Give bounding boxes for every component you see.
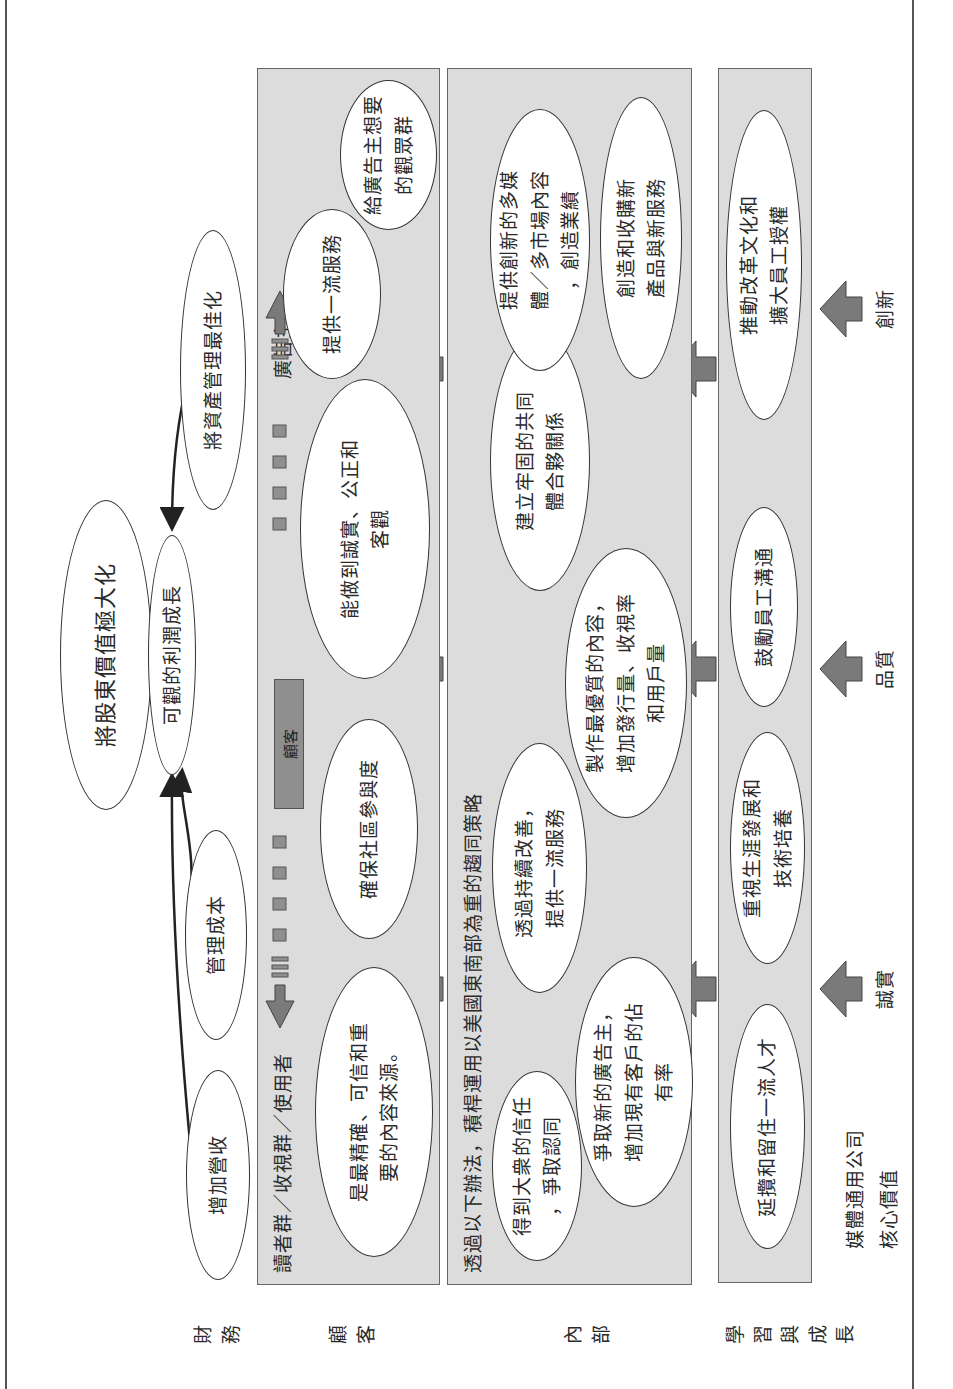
internal-heading: 透過以下辦法，積桿運用以美國東南部為重的趨同策略: [458, 793, 485, 1273]
oval-manage-cost: 管理成本: [185, 830, 247, 1040]
internal-oval-public-trust: 得到大衆的信任 ，爭取認同: [492, 1071, 582, 1261]
row-label-financial: 財 務: [190, 1323, 245, 1344]
core-value-quality: 品質: [870, 649, 897, 689]
customer-left-heading: 讀者群／收視群／使用者: [268, 1053, 295, 1273]
internal-oval-continuous-improvement: 透過持續改善， 提供一流服務: [492, 743, 587, 993]
oval-profit-growth: 可觀的利潤成長: [148, 535, 196, 775]
customer-oval-accurate-source: 是最精確、可信和重 要的內容來源。: [315, 967, 433, 1257]
internal-oval-new-advertisers: 爭取新的廣告主， 增加現有客戶的佔 有率: [575, 957, 693, 1207]
row-label-learning: 學 習 與 成 長: [722, 1323, 860, 1344]
learning-oval-culture-empowerment: 推動改革文化和 擴大員工授權: [726, 110, 802, 420]
oval-increase-revenue: 增加營收: [186, 1070, 250, 1280]
core-value-innovation: 創新: [870, 289, 897, 329]
frame-line-top: [5, 0, 7, 1389]
internal-oval-multimedia: 提供創新的多媒 體／多市場內容 ，創造業績: [490, 109, 590, 371]
frame-line-bottom: [912, 0, 914, 1389]
learning-oval-communication: 鼓勵員工溝通: [730, 507, 798, 707]
learning-oval-talent: 延攬和留住一流人才: [730, 1004, 805, 1249]
core-values-title: 媒體通用公司 核心價值: [838, 1129, 906, 1249]
customer-oval-community: 確保社區參與度: [320, 719, 418, 939]
block-arrows-values-to-learning: [820, 281, 862, 1017]
internal-oval-quality-content: 製作最優質的內容， 增加發行量、收視率 和用戶量: [565, 548, 687, 818]
row-label-internal: 內 部: [560, 1323, 615, 1344]
row-label-customer: 顧 客: [325, 1323, 380, 1344]
core-value-integrity: 誠實: [870, 969, 897, 1009]
oval-asset-management: 將資產管理最佳化: [180, 230, 246, 510]
learning-oval-career: 重視生涯發展和 技術培養: [730, 732, 805, 964]
customer-oval-audience: 給廣告主想要 的觀眾群: [340, 80, 437, 230]
strategy-map: 財 務 顧 客 內 部 學 習 與 成 長 將股東價值極大化 可觀的利潤成長 將…: [0, 0, 953, 1389]
customer-oval-honest-fair: 能做到誠實、公正和 客觀: [300, 379, 430, 679]
oval-shareholder-value: 將股東價值極大化: [60, 500, 152, 810]
customer-oval-first-class-service: 提供一流服務: [283, 209, 381, 379]
customer-center-tag: 顧客: [274, 679, 304, 809]
internal-oval-new-products: 創造和收購新 產品與新服務: [600, 97, 682, 379]
